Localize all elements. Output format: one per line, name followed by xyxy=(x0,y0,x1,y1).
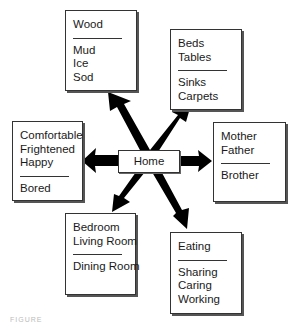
node-item: Living Room xyxy=(73,235,135,249)
node-item: Father xyxy=(221,144,285,158)
node-item: Sod xyxy=(73,71,136,85)
node-item: Bedroom xyxy=(73,221,135,235)
node-materials: Wood Mud Ice Sod xyxy=(65,10,137,91)
node-item: Wood xyxy=(73,18,136,32)
divider xyxy=(221,163,270,164)
arrow-to-materials xyxy=(108,92,150,152)
node-item: Beds xyxy=(178,37,241,51)
node-furnishings: Beds Tables Sinks Carpets xyxy=(170,29,242,110)
node-item: Brother xyxy=(221,169,285,183)
node-item: Caring xyxy=(178,279,241,293)
node-item: Bored xyxy=(20,182,82,196)
node-item: Eating xyxy=(178,240,241,254)
node-item: Working xyxy=(178,293,241,307)
node-item: Mother xyxy=(221,130,285,144)
node-rooms: Bedroom Living Room Dining Room xyxy=(65,213,136,295)
node-item: Sharing xyxy=(178,266,241,280)
node-item: Comfortable xyxy=(20,129,82,143)
divider xyxy=(20,176,69,177)
arrow-to-family xyxy=(180,150,212,172)
divider xyxy=(73,38,122,39)
arrow-to-activities xyxy=(152,171,189,229)
node-item: Sinks xyxy=(178,76,241,90)
divider xyxy=(178,260,227,261)
node-family: Mother Father Brother xyxy=(213,122,286,202)
node-item: Mud xyxy=(73,44,136,58)
divider xyxy=(73,254,122,255)
node-feelings: Comfortable Frightened Happy Bored xyxy=(12,121,83,201)
divider xyxy=(178,70,227,71)
node-item: Ice xyxy=(73,57,136,71)
node-item: Happy xyxy=(20,156,82,170)
node-item: Dining Room xyxy=(73,260,135,274)
node-item: Frightened xyxy=(20,143,82,157)
arrow-to-furnishings xyxy=(150,108,190,152)
arrow-to-rooms xyxy=(112,172,145,212)
node-item: Tables xyxy=(178,51,241,65)
node-activities: Eating Sharing Caring Working xyxy=(170,232,242,314)
node-item: Carpets xyxy=(178,90,241,104)
center-node-home: Home xyxy=(118,150,180,173)
arrow-to-feelings xyxy=(82,148,119,173)
